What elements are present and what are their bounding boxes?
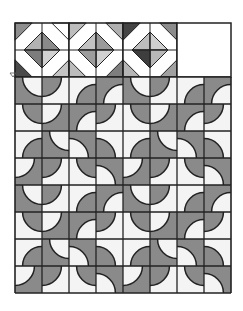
- curve-cell: [150, 266, 177, 293]
- curve-cell: [96, 131, 123, 158]
- curve-cell: [204, 212, 231, 239]
- curve-cell: [15, 185, 42, 212]
- curve-cell: [42, 77, 69, 104]
- curve-cell: [69, 158, 96, 185]
- curve-cell: [123, 185, 150, 212]
- diamond-header-blocks: [15, 23, 177, 77]
- curve-cell: [177, 185, 204, 212]
- curve-cell: [123, 212, 150, 239]
- curve-cell: [150, 77, 177, 104]
- curve-cell: [69, 266, 96, 293]
- curve-cell: [177, 158, 204, 185]
- curve-cell: [204, 266, 231, 293]
- curve-cell: [42, 266, 69, 293]
- diamond-block: [69, 23, 123, 77]
- curve-cell: [204, 131, 231, 158]
- curve-cell: [177, 77, 204, 104]
- curve-cell: [69, 77, 96, 104]
- curve-cell: [69, 185, 96, 212]
- curve-cell: [150, 239, 177, 266]
- curve-cell: [15, 77, 42, 104]
- diamond-block: [123, 23, 177, 77]
- curve-cell: [177, 266, 204, 293]
- curve-cell: [15, 104, 42, 131]
- curve-cell: [123, 77, 150, 104]
- curve-cell: [123, 131, 150, 158]
- curve-cell: [177, 131, 204, 158]
- curve-cell: [96, 77, 123, 104]
- curve-cell: [96, 158, 123, 185]
- curve-cell: [204, 185, 231, 212]
- curve-cell: [150, 158, 177, 185]
- curve-cell: [123, 239, 150, 266]
- curve-cell: [204, 239, 231, 266]
- diamond-block: [15, 23, 69, 77]
- curve-cell: [150, 212, 177, 239]
- curve-cell: [96, 185, 123, 212]
- curve-cell: [123, 158, 150, 185]
- curve-cell: [96, 212, 123, 239]
- curve-cell: [69, 239, 96, 266]
- curve-cell: [15, 239, 42, 266]
- curve-cell: [69, 104, 96, 131]
- curve-cell: [42, 131, 69, 158]
- curve-cell: [69, 212, 96, 239]
- curve-cell: [42, 239, 69, 266]
- curve-cell: [96, 266, 123, 293]
- curve-cell: [204, 77, 231, 104]
- curve-cell: [69, 131, 96, 158]
- curve-cell: [204, 158, 231, 185]
- curve-cell: [123, 266, 150, 293]
- curve-cell: [42, 158, 69, 185]
- curve-cell: [15, 158, 42, 185]
- quilt-pattern: [0, 0, 243, 311]
- curve-cell: [150, 131, 177, 158]
- curve-cell: [204, 104, 231, 131]
- curve-cell: [150, 185, 177, 212]
- curve-cell: [15, 131, 42, 158]
- curve-cell: [42, 104, 69, 131]
- curve-cell: [177, 239, 204, 266]
- curve-cell: [177, 212, 204, 239]
- curve-cell: [96, 104, 123, 131]
- empty-header-block: [177, 23, 231, 77]
- curve-cell: [177, 104, 204, 131]
- curve-cell: [123, 104, 150, 131]
- curve-cell: [15, 266, 42, 293]
- curve-cell: [15, 212, 42, 239]
- curve-cell: [150, 104, 177, 131]
- curve-cell: [96, 239, 123, 266]
- curve-cell: [42, 212, 69, 239]
- curve-cell: [42, 185, 69, 212]
- empty-block: [177, 23, 231, 77]
